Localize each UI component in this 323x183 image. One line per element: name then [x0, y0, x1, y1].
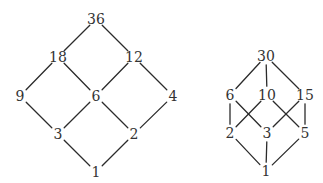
edge-3-1 — [266, 142, 267, 162]
node-6: 6 — [92, 88, 101, 104]
node-6: 6 — [226, 87, 235, 103]
node-15: 15 — [296, 87, 314, 103]
edge-4-2 — [140, 102, 166, 128]
edge-5-1 — [272, 139, 298, 165]
node-1: 1 — [262, 163, 271, 179]
node-12: 12 — [125, 49, 143, 65]
edge-36-18 — [64, 25, 90, 51]
edge-30-6 — [236, 63, 260, 89]
edge-12-4 — [140, 63, 167, 90]
node-5: 5 — [301, 125, 310, 141]
hasse-diagram-divisors-of-36: 361812964321 — [16, 11, 178, 180]
edge-12-6 — [102, 63, 128, 89]
node-4: 4 — [169, 88, 178, 104]
node-3: 3 — [54, 126, 63, 142]
edge-3-1 — [64, 140, 90, 166]
node-36: 36 — [87, 11, 105, 27]
node-18: 18 — [49, 49, 67, 65]
node-2: 2 — [226, 125, 235, 141]
node-3: 3 — [263, 125, 272, 141]
node-2: 2 — [130, 126, 139, 142]
edge-18-6 — [64, 63, 90, 89]
hasse-diagrams-canvas: 361812964321 30610152351 — [0, 0, 323, 183]
edge-9-3 — [26, 102, 52, 128]
node-30: 30 — [257, 48, 275, 64]
edge-6-3 — [64, 102, 90, 128]
edge-2-1 — [102, 140, 128, 166]
edge-18-9 — [26, 63, 52, 89]
node-1: 1 — [92, 164, 101, 180]
node-10: 10 — [258, 87, 276, 103]
edge-6-2 — [102, 102, 128, 128]
node-9: 9 — [16, 88, 25, 104]
hasse-diagram-divisors-of-30: 30610152351 — [226, 48, 314, 179]
edge-30-10 — [266, 65, 267, 86]
edge-30-15 — [272, 62, 299, 89]
edge-36-12 — [102, 25, 128, 51]
edge-2-1 — [236, 139, 260, 164]
